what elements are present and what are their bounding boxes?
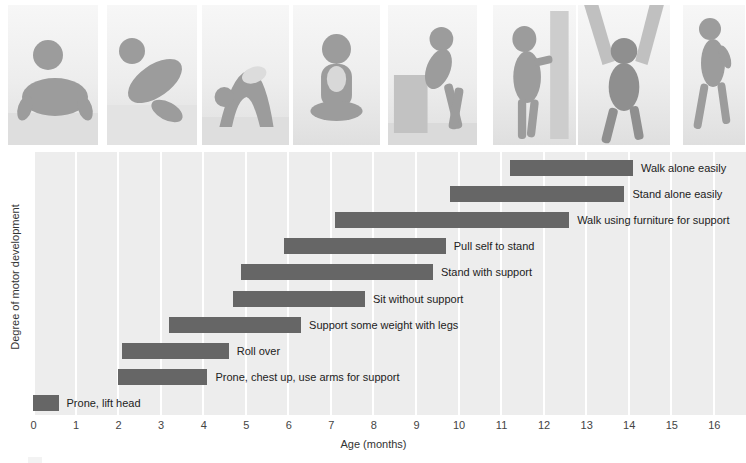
milestone-bar-7: [169, 317, 301, 333]
photo-baby-walking-alone: [683, 5, 745, 145]
x-tick-1: 1: [73, 419, 79, 431]
baby-walk-supported-icon: [578, 5, 670, 145]
baby-photo-row: [0, 0, 746, 150]
baby-pull-to-stand-icon: [388, 5, 477, 145]
milestone-bar-6: [233, 291, 365, 307]
x-tick-2: 2: [116, 419, 122, 431]
milestone-bar-1: [510, 160, 633, 176]
baby-roll-over-icon: [107, 5, 197, 145]
gridline-month-1: [75, 152, 77, 415]
milestone-label-6: Sit without support: [373, 291, 464, 307]
cropped-caption-fragment: [28, 457, 42, 463]
photo-baby-walking-with-support: [578, 5, 670, 145]
x-tick-8: 8: [371, 419, 377, 431]
milestone-bar-3: [335, 212, 569, 228]
motor-development-figure: Degree of motor development Walk alone e…: [0, 0, 746, 463]
x-tick-13: 13: [581, 419, 593, 431]
x-tick-4: 4: [201, 419, 207, 431]
milestone-label-8: Roll over: [237, 343, 280, 359]
baby-stand-holding-icon: [493, 5, 576, 145]
baby-walk-alone-icon: [683, 5, 745, 145]
photo-baby-on-hands-and-feet: [202, 5, 289, 145]
x-tick-9: 9: [413, 419, 419, 431]
milestone-label-1: Walk alone easily: [641, 160, 726, 176]
photo-baby-pulling-to-stand: [388, 5, 477, 145]
x-tick-16: 16: [708, 419, 720, 431]
baby-bear-crawl-icon: [202, 5, 289, 145]
x-axis-label: Age (months): [33, 438, 714, 450]
milestone-bar-8: [122, 343, 228, 359]
milestone-bar-10: [33, 395, 59, 411]
x-tick-15: 15: [666, 419, 678, 431]
x-tick-3: 3: [158, 419, 164, 431]
baby-sitting-icon: [293, 5, 380, 145]
photo-baby-standing-holding-furniture: [493, 5, 576, 145]
milestone-label-9: Prone, chest up, use arms for support: [215, 369, 399, 385]
x-tick-7: 7: [328, 419, 334, 431]
milestone-bar-5: [241, 264, 432, 280]
milestone-label-10: Prone, lift head: [67, 395, 141, 411]
milestone-label-3: Walk using furniture for support: [577, 212, 729, 228]
gridline-month-14: [628, 152, 630, 415]
photo-baby-rolling-over: [107, 5, 197, 145]
x-tick-12: 12: [538, 419, 550, 431]
x-axis-ticks: 012345678910111213141516: [33, 419, 746, 433]
milestone-label-5: Stand with support: [441, 264, 532, 280]
milestone-bar-2: [450, 186, 624, 202]
photo-baby-prone-lifting-head: [8, 5, 98, 145]
gridline-month-0: [33, 152, 35, 415]
x-tick-6: 6: [286, 419, 292, 431]
milestone-bar-9: [118, 369, 207, 385]
x-tick-10: 10: [453, 419, 465, 431]
x-tick-11: 11: [496, 419, 507, 431]
y-axis-label: Degree of motor development: [9, 204, 21, 350]
baby-prone-icon: [8, 5, 98, 145]
photo-baby-sitting: [293, 5, 380, 145]
plot-area: Walk alone easilyStand alone easilyWalk …: [33, 152, 746, 415]
gridline-month-9: [415, 152, 417, 415]
x-tick-0: 0: [30, 419, 36, 431]
milestone-label-7: Support some weight with legs: [309, 317, 458, 333]
milestone-label-4: Pull self to stand: [454, 238, 535, 254]
milestone-bar-4: [284, 238, 446, 254]
x-tick-14: 14: [623, 419, 635, 431]
x-tick-5: 5: [243, 419, 249, 431]
milestone-label-2: Stand alone easily: [632, 186, 722, 202]
